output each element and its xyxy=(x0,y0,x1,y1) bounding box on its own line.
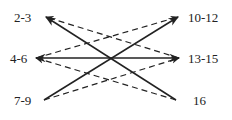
edge-dashed-n46-to-n1012 xyxy=(36,17,178,58)
node-label-4-6: 4-6 xyxy=(10,51,28,66)
edge-dashed-n79-to-n1315 xyxy=(44,58,179,100)
age-group-diagram: 2-3 4-6 7-9 10-12 13-15 16 xyxy=(0,0,232,120)
node-label-2-3: 2-3 xyxy=(14,10,31,25)
edge-dashed-n16-to-n46 xyxy=(36,58,176,100)
node-label-13-15: 13-15 xyxy=(188,51,218,66)
node-label-10-12: 10-12 xyxy=(188,10,218,25)
node-label-7-9: 7-9 xyxy=(14,93,31,108)
edge-dashed-n1315-to-n23 xyxy=(46,17,179,58)
node-label-16: 16 xyxy=(193,93,207,108)
